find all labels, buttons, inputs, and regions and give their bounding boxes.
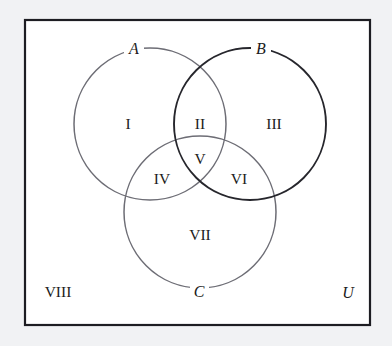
region-label-iii: III xyxy=(266,115,282,132)
region-label-viii: VIII xyxy=(45,283,72,300)
region-label-vi: VI xyxy=(231,170,247,187)
region-label-v: V xyxy=(194,150,206,167)
region-label-i: I xyxy=(125,115,130,132)
universal-set-label: U xyxy=(342,284,355,301)
region-label-ii: II xyxy=(195,115,205,132)
region-label-vii: VII xyxy=(189,226,211,243)
set-label-b: B xyxy=(256,40,266,57)
region-label-iv: IV xyxy=(154,170,171,187)
venn-diagram-figure: A B C I II III IV V VI VII VIII U xyxy=(0,0,392,346)
venn-diagram-canvas: A B C I II III IV V VI VII VIII U xyxy=(0,0,392,346)
set-label-a: A xyxy=(128,40,139,57)
universal-set-rectangle xyxy=(25,20,370,325)
set-label-c: C xyxy=(194,283,205,300)
